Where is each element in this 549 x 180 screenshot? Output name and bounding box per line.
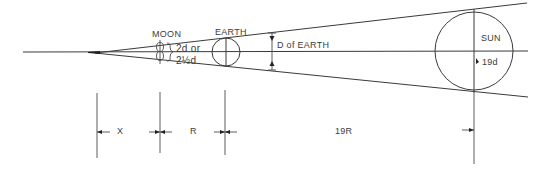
sun-diameter-label: 19d [482, 58, 498, 67]
distance-dimension-arrows [97, 128, 474, 134]
eclipse-geometry-diagram [0, 0, 549, 180]
earth-label: EARTH [215, 28, 247, 37]
distance-19r-label: 19R [335, 127, 352, 136]
moon-size-label-line2: 2½d [176, 56, 196, 66]
earth-diameter-label: D of EARTH [277, 41, 329, 50]
sun-label: SUN [481, 34, 501, 43]
moon-label: MOON [152, 30, 181, 39]
distance-x-label: X [117, 127, 123, 136]
distance-r-label: R [190, 127, 197, 136]
sun-diameter-marker [476, 58, 479, 64]
moon-size-label-line1: 2d or [176, 44, 200, 54]
